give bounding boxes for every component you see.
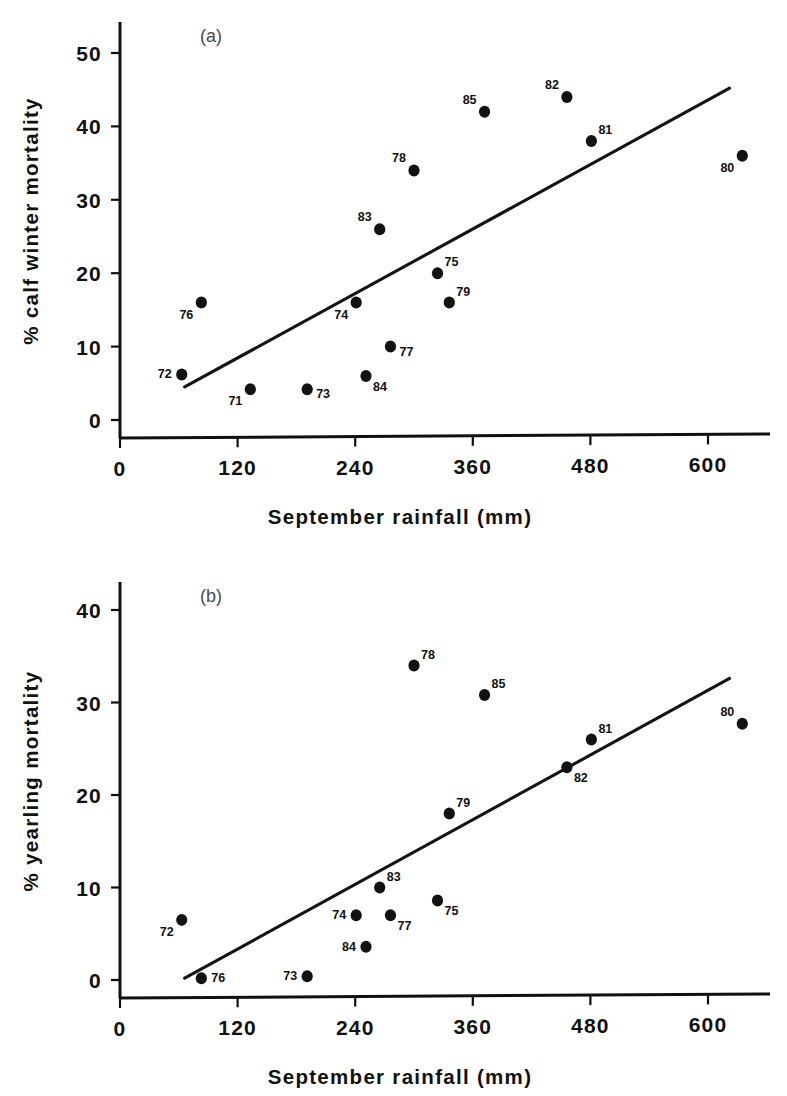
y-tick-label: 20: [76, 784, 102, 807]
data-point-label: 84: [342, 940, 356, 954]
data-point-label: 73: [283, 969, 297, 983]
scatter-plot-b: 0102030400120240360480600727374757677787…: [0, 548, 787, 1096]
x-tick-label: 240: [336, 456, 375, 479]
data-point: [737, 150, 748, 162]
data-point: [302, 970, 313, 982]
data-point-label: 72: [158, 367, 172, 381]
y-tick-label: 0: [89, 969, 102, 992]
data-point-label: 80: [720, 161, 734, 175]
y-tick-label: 10: [76, 336, 102, 359]
x-tick-label: 480: [571, 454, 610, 477]
data-point-label: 85: [463, 93, 477, 107]
data-point: [737, 718, 748, 730]
data-point: [302, 383, 313, 395]
data-point: [245, 383, 256, 395]
data-point-label: 77: [397, 919, 411, 933]
regression-line: [185, 88, 730, 387]
data-point-label: 80: [720, 705, 734, 719]
data-point-label: 72: [160, 925, 174, 939]
data-point: [432, 267, 443, 279]
panel-label: (a): [200, 26, 222, 46]
data-point: [586, 135, 597, 147]
y-tick-label: 0: [89, 409, 102, 432]
y-tick-label: 40: [76, 115, 102, 138]
data-point: [360, 941, 371, 953]
scatter-plot-a: 0102030405001202403604806007172737475767…: [0, 0, 787, 548]
data-point: [351, 297, 362, 309]
x-axis-line: [120, 994, 770, 998]
x-tick-label: 0: [114, 457, 127, 480]
x-tick-label: 600: [689, 453, 728, 476]
data-point-label: 82: [545, 78, 559, 92]
data-point: [360, 370, 371, 382]
y-axis-title: % calf winter mortality: [19, 97, 42, 344]
data-point-label: 75: [445, 255, 459, 269]
panel-label: (b): [200, 586, 222, 606]
data-point-label: 81: [598, 722, 612, 736]
chart-panel-b: 0102030400120240360480600727374757677787…: [0, 548, 787, 1096]
data-point: [432, 894, 443, 906]
data-point: [479, 689, 490, 701]
data-point: [176, 368, 187, 380]
data-point: [561, 91, 572, 103]
data-point-label: 74: [334, 308, 348, 322]
x-axis-title: September rainfall (mm): [268, 1065, 533, 1088]
data-point: [385, 341, 396, 353]
data-point: [196, 297, 207, 309]
data-point: [374, 223, 385, 235]
data-point-label: 77: [399, 345, 413, 359]
x-axis-line: [120, 434, 770, 438]
data-point-label: 83: [387, 870, 401, 884]
data-point-label: 73: [316, 387, 330, 401]
data-point-label: 84: [373, 380, 387, 394]
y-tick-label: 10: [76, 877, 102, 900]
regression-line: [185, 678, 730, 978]
y-tick-label: 30: [76, 189, 102, 212]
data-point-label: 82: [574, 771, 588, 785]
data-point: [444, 808, 455, 820]
data-point-label: 76: [211, 971, 225, 985]
data-point-label: 78: [392, 151, 406, 165]
data-point: [586, 734, 597, 746]
x-tick-label: 480: [571, 1014, 610, 1037]
data-point: [408, 660, 419, 672]
x-tick-label: 120: [218, 456, 257, 479]
data-point-label: 75: [445, 904, 459, 918]
data-point: [385, 909, 396, 921]
x-axis-title: September rainfall (mm): [268, 505, 533, 528]
data-point-label: 79: [456, 796, 470, 810]
y-tick-label: 50: [76, 42, 102, 65]
data-point-label: 76: [179, 308, 193, 322]
data-point-label: 71: [228, 394, 242, 408]
y-tick-label: 40: [76, 599, 102, 622]
x-tick-label: 120: [218, 1016, 257, 1039]
y-tick-label: 20: [76, 262, 102, 285]
data-point-label: 85: [492, 677, 506, 691]
x-tick-label: 240: [336, 1016, 375, 1039]
data-point: [408, 164, 419, 176]
chart-panel-a: 0102030405001202403604806007172737475767…: [0, 0, 787, 548]
figure-page: 0102030405001202403604806007172737475767…: [0, 0, 787, 1096]
data-point-label: 83: [358, 210, 372, 224]
data-point-label: 74: [332, 908, 346, 922]
data-point-label: 79: [456, 285, 470, 299]
data-point: [444, 297, 455, 309]
x-tick-label: 600: [689, 1013, 728, 1036]
x-tick-label: 360: [453, 1015, 492, 1038]
data-point: [374, 882, 385, 894]
data-point: [479, 106, 490, 118]
x-tick-label: 360: [453, 455, 492, 478]
data-point: [196, 972, 207, 984]
x-tick-label: 0: [114, 1017, 127, 1040]
data-point-label: 81: [598, 123, 612, 137]
y-tick-label: 30: [76, 692, 102, 715]
y-axis-title: % yearling mortality: [19, 671, 42, 892]
data-point-label: 78: [421, 648, 435, 662]
data-point: [176, 914, 187, 926]
data-point: [351, 909, 362, 921]
data-point: [561, 761, 572, 773]
